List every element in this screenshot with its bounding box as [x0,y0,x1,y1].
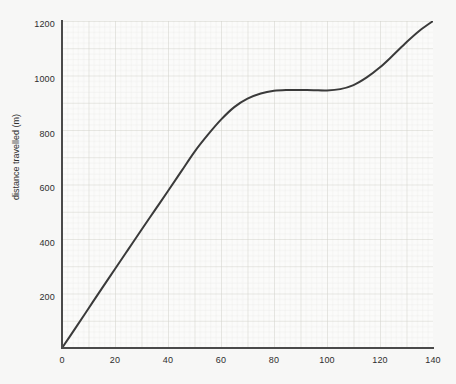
x-tick-20: 20 [110,355,120,365]
y-tick-label: 200 [22,292,55,302]
x-tick-100: 100 [319,355,335,365]
y-tick-label: 800 [22,129,55,139]
y-tick-label: 1200 [22,19,55,29]
x-tick-40: 40 [163,355,173,365]
y-tick-label: 600 [22,183,55,193]
x-axis-line [61,347,434,349]
plot-area [62,21,433,348]
x-tick-80: 80 [269,355,279,365]
x-tick-0: 0 [59,355,64,365]
chart-page: distance travelled (m) 200 400 600 800 1… [0,0,456,384]
x-tick-60: 60 [216,355,226,365]
y-axis-title: distance travelled (m) [11,87,21,227]
x-tick-140: 140 [425,355,441,365]
x-tick-120: 120 [372,355,388,365]
data-curve [62,21,433,348]
y-tick-label: 400 [22,238,55,248]
y-tick-label: 1000 [22,74,55,84]
series-path-distance-travelled [62,21,433,348]
y-axis-line [61,20,63,349]
